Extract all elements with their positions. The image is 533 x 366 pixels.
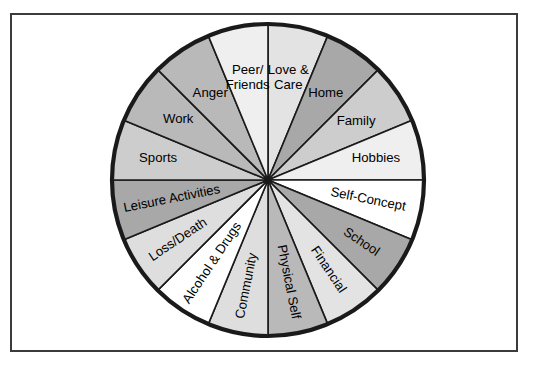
pie-slice-label: Work [163,111,194,126]
pie-chart-svg: Love &CareHomeFamilyHobbiesSelf-ConceptS… [0,0,533,366]
pie-slice-label: Hobbies [352,150,401,165]
pie-slice-label: Family [337,113,376,128]
pie-slice-label-line: Peer/ [232,62,264,77]
pie-slice-label-line: Care [274,77,303,92]
pie-slice-label: Sports [139,150,178,165]
pie-slice-label-line: Friends [226,77,270,92]
pie-slice-label-line: Love & [268,62,309,77]
pie-wheel-container: Love &CareHomeFamilyHobbiesSelf-ConceptS… [0,0,533,366]
pie-slice-label: Home [308,85,343,100]
pie-slice-label: Anger [193,85,229,100]
pie-slice-label: Peer/Friends [226,62,270,92]
wellness-wheel-figure: Love &CareHomeFamilyHobbiesSelf-ConceptS… [0,0,533,366]
